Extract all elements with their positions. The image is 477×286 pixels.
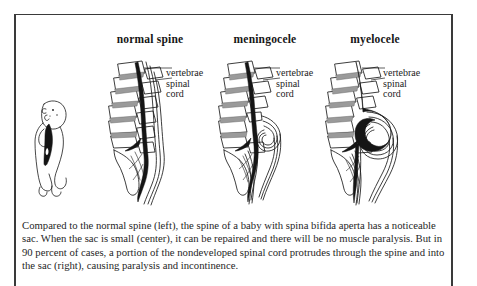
label-vertebrae: vertebrae	[383, 68, 420, 79]
label-cord: cord	[276, 89, 313, 100]
figure-caption: Compared to the normal spine (left), the…	[22, 219, 446, 273]
label-cord: cord	[383, 89, 420, 100]
panel-title-meningocele: meningocele	[223, 33, 307, 45]
label-vertebrae: vertebrae	[166, 68, 203, 79]
labels-meningocele: vertebrae spinal cord	[276, 68, 313, 100]
label-cord: cord	[166, 89, 203, 100]
label-vertebrae: vertebrae	[276, 68, 313, 79]
frame-top-rule	[14, 14, 452, 15]
infant-profile-illustration	[16, 96, 76, 200]
figure-container: normal spine meningocele myelocele	[0, 0, 477, 286]
panel-title-myelocele: myelocele	[335, 33, 415, 45]
labels-myelocele: vertebrae spinal cord	[383, 68, 420, 100]
panel-title-normal-spine: normal spine	[110, 33, 190, 45]
frame-right-rule	[451, 14, 453, 286]
labels-normal-spine: vertebrae spinal cord	[166, 68, 203, 100]
